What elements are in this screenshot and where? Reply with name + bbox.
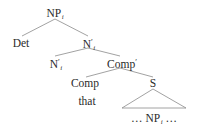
node-nbar-upper: N′i [83, 37, 96, 54]
node-index: i [62, 13, 64, 21]
node-label: Comp [71, 77, 99, 89]
node-index: i [93, 44, 95, 52]
node-comp: Comp [71, 77, 99, 89]
node-nbar-lower: N′i [50, 57, 63, 74]
content-pre: … NP [131, 112, 160, 124]
syntax-tree: NPi Det N′i N′i Comp′ Comp S that … NPi … [0, 0, 198, 140]
node-index: i [60, 64, 62, 72]
node-that: that [78, 95, 95, 107]
node-label: NP [46, 7, 61, 19]
s-triangle [122, 89, 186, 108]
node-det: Det [13, 37, 30, 49]
node-label: S [150, 77, 156, 89]
node-compbar: Comp′ [107, 57, 137, 70]
node-label: Comp [107, 58, 135, 70]
node-label: Det [13, 37, 30, 49]
node-label: that [78, 95, 95, 107]
content-post: … [163, 112, 177, 124]
node-prime: ′ [58, 58, 60, 67]
node-prime: ′ [135, 58, 137, 67]
node-np-root: NPi [46, 7, 63, 23]
node-s: S [150, 77, 156, 89]
node-prime: ′ [91, 38, 93, 47]
node-s-content: … NPi … [131, 112, 177, 128]
